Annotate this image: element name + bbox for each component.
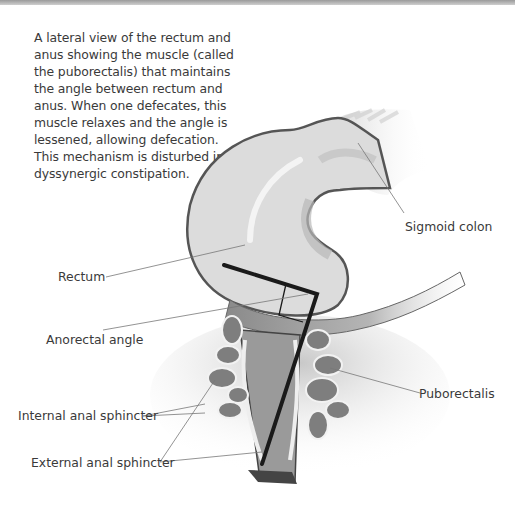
label-sigmoid-colon: Sigmoid colon (405, 219, 492, 234)
label-external-anal-sphincter: External anal sphincter (31, 455, 175, 470)
label-anorectal-angle: Anorectal angle (46, 332, 143, 347)
label-rectum: Rectum (58, 269, 105, 284)
label-internal-anal-sphincter: Internal anal sphincter (18, 408, 158, 423)
label-puborectalis: Puborectalis (419, 386, 495, 401)
anorectal-illustration (0, 0, 515, 505)
